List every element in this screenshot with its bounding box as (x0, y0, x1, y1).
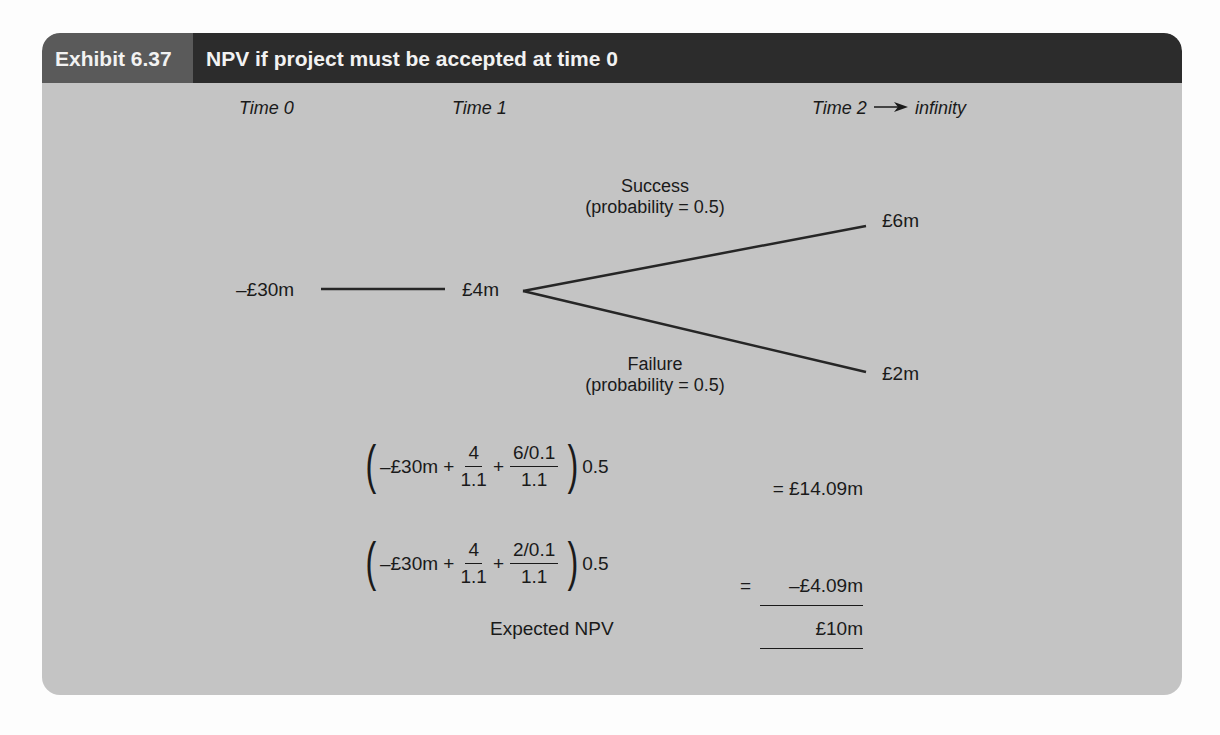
failure-label-text: Failure (560, 354, 750, 375)
close-paren: ) (568, 534, 579, 588)
success-value: £6m (882, 210, 919, 232)
failure-probability: (probability = 0.5) (560, 375, 750, 396)
calc-failure-result-eq: = (740, 575, 751, 597)
success-probability: (probability = 0.5) (560, 197, 750, 218)
calc-failure: ( –£30m + 41.1 + 2/0.11.1 ) 0.5 (362, 539, 609, 588)
failure-value: £2m (882, 363, 919, 385)
calc-lead: –£30m + (380, 456, 454, 478)
plus-sign: + (493, 553, 504, 575)
expected-npv-value: £10m (760, 618, 863, 649)
success-label: Success (probability = 0.5) (560, 176, 750, 218)
fraction: 41.1 (460, 539, 486, 588)
fraction: 6/0.11.1 (510, 442, 558, 491)
calc-multiplier: 0.5 (582, 456, 608, 478)
expected-npv-label: Expected NPV (490, 618, 614, 640)
fraction: 2/0.11.1 (510, 539, 558, 588)
close-paren: ) (568, 437, 579, 491)
fraction: 41.1 (460, 442, 486, 491)
success-label-text: Success (560, 176, 750, 197)
plus-sign: + (493, 456, 504, 478)
branch-line-success (523, 226, 866, 291)
calc-success-result: = £14.09m (718, 478, 863, 500)
calc-failure-result: –£4.09m (760, 575, 863, 606)
node-time1-value: £4m (462, 279, 499, 301)
open-paren: ( (366, 534, 377, 588)
calc-multiplier: 0.5 (582, 553, 608, 575)
failure-label: Failure (probability = 0.5) (560, 354, 750, 396)
calc-success: ( –£30m + 41.1 + 6/0.11.1 ) 0.5 (362, 442, 609, 491)
root-value: –£30m (236, 279, 294, 301)
calc-lead: –£30m + (380, 553, 454, 575)
open-paren: ( (366, 437, 377, 491)
